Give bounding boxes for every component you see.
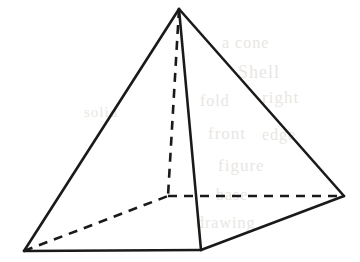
solid-edge-group — [24, 9, 344, 251]
edge-left-to-back — [24, 196, 168, 251]
edge-apex-to-right — [179, 9, 344, 196]
pyramid-diagram-svg — [0, 0, 360, 262]
pyramid-figure: a coneShellrightfoldfrontedgefigurebased… — [0, 0, 360, 262]
edge-left-to-front — [24, 250, 201, 251]
edge-apex-to-left — [24, 9, 179, 251]
edge-apex-to-front — [179, 9, 201, 250]
edge-apex-to-back — [168, 9, 179, 196]
edge-front-to-right — [201, 196, 344, 250]
